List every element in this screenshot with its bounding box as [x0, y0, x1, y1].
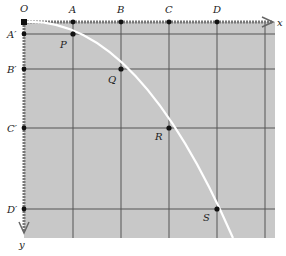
label-d: D [212, 4, 221, 15]
tick-a-prime [22, 32, 27, 37]
label-d-prime: D′ [6, 204, 18, 215]
tick-b-prime [22, 67, 27, 72]
origin-point [21, 19, 27, 25]
tick-b [119, 20, 124, 25]
label-origin: O [20, 3, 28, 14]
point-r [166, 125, 171, 130]
parabola-diagram: O A B C D x A′ B′ C′ D′ y P Q R S [0, 0, 286, 256]
point-q [118, 66, 123, 71]
label-r: R [154, 131, 163, 142]
label-s: S [203, 212, 210, 223]
label-c-prime: C′ [7, 123, 18, 134]
label-c: C [165, 4, 173, 15]
label-a: A [68, 4, 76, 15]
label-b: B [116, 4, 124, 15]
label-p: P [59, 39, 67, 50]
panel [24, 22, 275, 238]
label-b-prime: B′ [6, 64, 17, 75]
label-q: Q [108, 74, 116, 85]
tick-d [215, 20, 220, 25]
tick-c-prime [22, 126, 27, 131]
label-y-axis: y [18, 239, 25, 250]
tick-d-prime [22, 207, 27, 212]
tick-a [71, 20, 76, 25]
point-s [214, 206, 219, 211]
label-x-axis: x [277, 17, 283, 28]
label-a-prime: A′ [6, 29, 17, 40]
tick-c [167, 20, 172, 25]
point-p [70, 31, 75, 36]
